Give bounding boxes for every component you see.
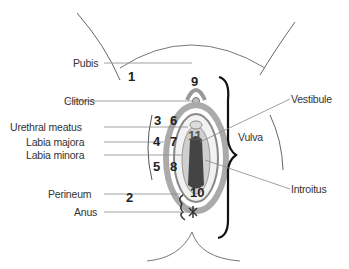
label-anus: Anus [74,206,97,218]
label-introitus: Introitus [291,183,327,195]
number-8: 8 [170,159,177,174]
right-thigh-line [260,22,295,75]
label-vulva: Vulva [238,131,263,143]
label-urethral-meatus: Urethral meatus [10,121,82,133]
number-9: 9 [191,74,198,89]
buttocks-curve [147,232,240,261]
label-clitoris: Clitoris [64,95,95,107]
number-11: 11 [188,128,202,143]
number-2: 2 [126,190,133,205]
number-5: 5 [153,159,160,174]
number-6: 6 [170,113,177,128]
label-labia-majora: Labia majora [26,136,84,148]
left-thigh-line [77,13,120,80]
label-pubis: Pubis [73,57,98,69]
pubis-curve [120,45,265,68]
vulva-anatomy-diagram: Pubis Clitoris Urethral meatus Labia maj… [0,0,349,269]
introitus-opening [188,136,204,189]
label-perineum: Perineum [48,188,91,200]
right-side-line [270,115,283,170]
label-labia-minora: Labia minora [26,149,84,161]
number-10: 10 [190,185,204,200]
number-1: 1 [128,69,135,84]
number-7: 7 [170,134,177,149]
number-4: 4 [153,134,160,149]
number-3: 3 [154,113,161,128]
left-bracket [148,115,152,180]
label-vestibule: Vestibule [291,93,332,105]
